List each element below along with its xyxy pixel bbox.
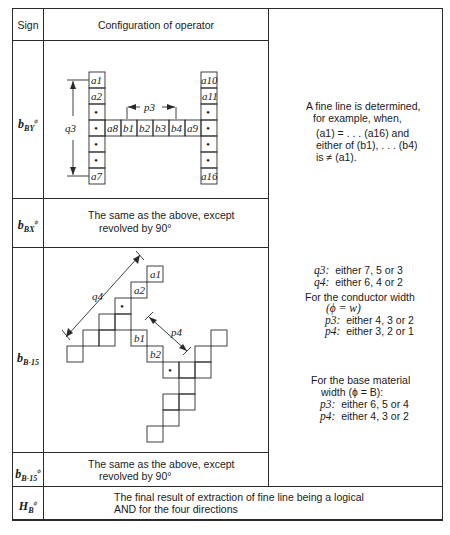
cell-dot: •: [120, 300, 124, 312]
cell-dot: •: [206, 154, 210, 166]
cell-dot: •: [94, 138, 98, 150]
cell-a2: a2: [134, 284, 146, 296]
diagonal-operator-diagram: a1 a2 • b1 b2 • q4 p4: [44, 248, 268, 452]
cell-a2: a2: [91, 90, 103, 102]
cell-a1: a1: [91, 74, 102, 86]
cell-b4: b4: [171, 122, 183, 134]
cell-b1: b1: [134, 332, 145, 344]
cell-a1: a1: [150, 268, 161, 280]
cell-dot: •: [206, 138, 210, 150]
cell-dot: •: [94, 154, 98, 166]
cell-dot: •: [168, 364, 172, 376]
cell-a9: a9: [187, 122, 199, 134]
cell-b1: b1: [123, 122, 134, 134]
dimension-p3: p3: [143, 101, 156, 113]
dimension-q4: q4: [92, 290, 104, 302]
sign-b-b15: bB-15: [13, 352, 43, 369]
cell-a16: a16: [201, 170, 218, 182]
sign-h-b: HBϕ: [13, 497, 43, 517]
cell-dot: •: [206, 122, 210, 134]
cell-a11: a11: [202, 90, 218, 102]
sign-b-by: bBYϕ: [13, 115, 43, 135]
header-sign: Sign: [13, 19, 43, 31]
cell-b3: b3: [155, 122, 167, 134]
sign-b-bx: bBXϕ: [13, 216, 43, 236]
sign-b-b15-phi: bB-15ϕ: [13, 465, 43, 485]
cell-a8: a8: [107, 122, 119, 134]
cell-b2: b2: [139, 122, 151, 134]
cell-a10: a10: [201, 74, 218, 86]
header-configuration: Configuration of operator: [44, 19, 268, 31]
cell-dot: •: [206, 106, 210, 118]
dimension-p4: p4: [170, 326, 183, 338]
cell-dot: •: [94, 122, 98, 134]
cell-a7: a7: [91, 170, 103, 182]
dimension-q3: q3: [65, 122, 77, 134]
cell-b2: b2: [150, 348, 162, 360]
h-shaped-operator-diagram: a1 a2 • • • • a7 a10 a11 • • • • a16 a8 …: [44, 41, 268, 198]
cell-dot: •: [94, 106, 98, 118]
